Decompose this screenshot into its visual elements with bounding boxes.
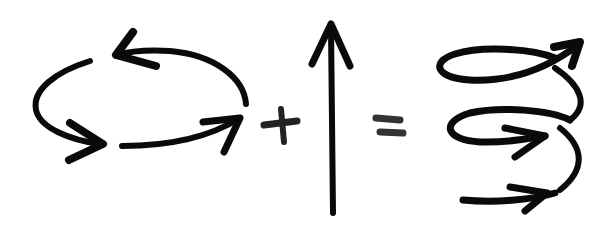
plus-icon (264, 109, 297, 142)
helix-icon (440, 42, 581, 211)
equals-icon (376, 118, 403, 133)
circular-motion-icon (36, 32, 246, 160)
diagram-canvas: circular motion + linear upward motion =… (0, 0, 615, 234)
up-arrow-icon (312, 24, 350, 213)
